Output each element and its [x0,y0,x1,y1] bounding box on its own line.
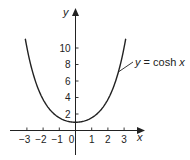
x-tick-label: −2 [35,134,47,145]
x-tick-label: 1 [89,134,95,145]
x-tick-label: −1 [51,134,63,145]
cosh-chart: −3−2−10123246810 y = cosh x x y [0,0,190,160]
y-tick-label: 2 [65,109,71,120]
y-tick-label: 4 [65,92,71,103]
x-tick-label: 0 [69,134,75,145]
curve-label: y = cosh x [134,56,185,68]
y-tick-label: 10 [59,43,71,54]
x-tick-label: 2 [105,134,111,145]
y-axis-arrow-icon [72,8,79,16]
y-axis-label: y [62,6,70,18]
x-tick-label: 3 [121,134,127,145]
x-axis-label: x [136,131,143,143]
y-tick-label: 8 [65,59,71,70]
y-tick-label: 6 [65,76,71,87]
x-tick-label: −3 [19,134,31,145]
